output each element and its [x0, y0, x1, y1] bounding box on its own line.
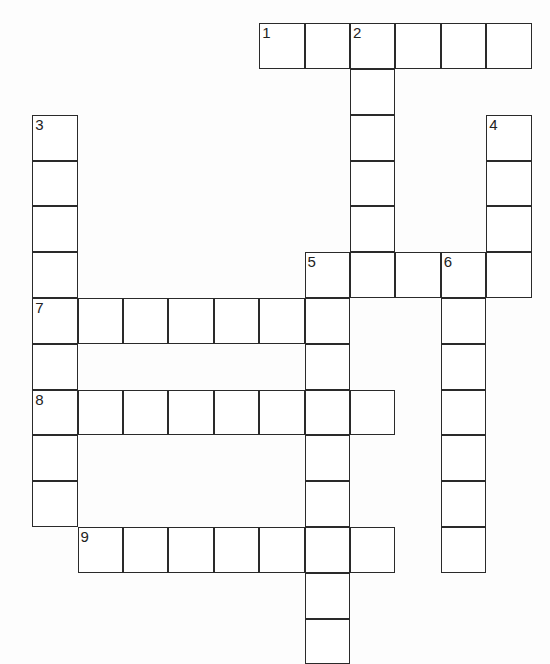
crossword-cell[interactable]	[32, 481, 77, 527]
crossword-cell[interactable]	[486, 252, 531, 298]
clue-number: 7	[35, 300, 43, 315]
crossword-cell[interactable]	[350, 252, 395, 298]
crossword-cell[interactable]	[441, 481, 486, 527]
crossword-cell[interactable]	[32, 344, 77, 390]
crossword-cell[interactable]	[214, 298, 259, 344]
crossword-cell[interactable]	[305, 390, 350, 436]
crossword-cell[interactable]	[32, 435, 77, 481]
crossword-cell[interactable]	[32, 252, 77, 298]
crossword-cell[interactable]	[486, 206, 531, 252]
crossword-cell[interactable]	[305, 527, 350, 573]
crossword-cell[interactable]	[350, 527, 395, 573]
clue-number: 1	[262, 25, 270, 40]
crossword-cell[interactable]	[78, 298, 123, 344]
crossword-cell[interactable]: 3	[32, 115, 77, 161]
clue-number: 5	[308, 254, 316, 269]
clue-number: 3	[35, 117, 43, 132]
clue-number: 6	[444, 254, 452, 269]
crossword-cell[interactable]: 2	[350, 23, 395, 69]
crossword-cell[interactable]	[486, 23, 531, 69]
crossword-cell[interactable]	[214, 390, 259, 436]
crossword-cell[interactable]	[486, 161, 531, 207]
crossword-cell[interactable]	[305, 344, 350, 390]
clue-number: 2	[353, 25, 361, 40]
crossword-cell[interactable]	[441, 298, 486, 344]
crossword-cell[interactable]	[123, 298, 168, 344]
crossword-cell[interactable]: 8	[32, 390, 77, 436]
crossword-cell[interactable]	[305, 481, 350, 527]
crossword-cell[interactable]	[441, 390, 486, 436]
crossword-cell[interactable]	[350, 161, 395, 207]
crossword-cell[interactable]	[305, 619, 350, 664]
crossword-cell[interactable]: 1	[259, 23, 304, 69]
crossword-cell[interactable]	[441, 344, 486, 390]
crossword-cell[interactable]	[259, 390, 304, 436]
crossword-cell[interactable]	[395, 23, 440, 69]
crossword-cell[interactable]	[350, 206, 395, 252]
crossword-cell[interactable]	[441, 527, 486, 573]
crossword-cell[interactable]: 7	[32, 298, 77, 344]
crossword-cell[interactable]	[441, 23, 486, 69]
crossword-cell[interactable]: 6	[441, 252, 486, 298]
crossword-cell[interactable]	[168, 527, 213, 573]
crossword-cell[interactable]	[168, 390, 213, 436]
crossword-cell[interactable]	[305, 298, 350, 344]
crossword-cell[interactable]: 9	[78, 527, 123, 573]
clue-number: 9	[81, 529, 89, 544]
crossword-cell[interactable]	[350, 69, 395, 115]
clue-number: 4	[489, 117, 497, 132]
crossword-cell[interactable]: 5	[305, 252, 350, 298]
crossword-cell[interactable]	[123, 527, 168, 573]
crossword-cell[interactable]	[168, 298, 213, 344]
crossword-cell[interactable]	[305, 435, 350, 481]
crossword-cell[interactable]	[259, 527, 304, 573]
crossword-cell[interactable]	[214, 527, 259, 573]
crossword-cell[interactable]	[123, 390, 168, 436]
clue-number: 8	[35, 392, 43, 407]
crossword-cell[interactable]	[78, 390, 123, 436]
crossword-cell[interactable]	[305, 23, 350, 69]
crossword-cell[interactable]	[259, 298, 304, 344]
crossword-cell[interactable]	[350, 115, 395, 161]
crossword-cell[interactable]: 4	[486, 115, 531, 161]
crossword-cell[interactable]	[32, 206, 77, 252]
crossword-cell[interactable]	[32, 161, 77, 207]
crossword-cell[interactable]	[350, 390, 395, 436]
crossword-cell[interactable]	[395, 252, 440, 298]
crossword-cell[interactable]	[305, 573, 350, 619]
crossword-cell[interactable]	[441, 435, 486, 481]
